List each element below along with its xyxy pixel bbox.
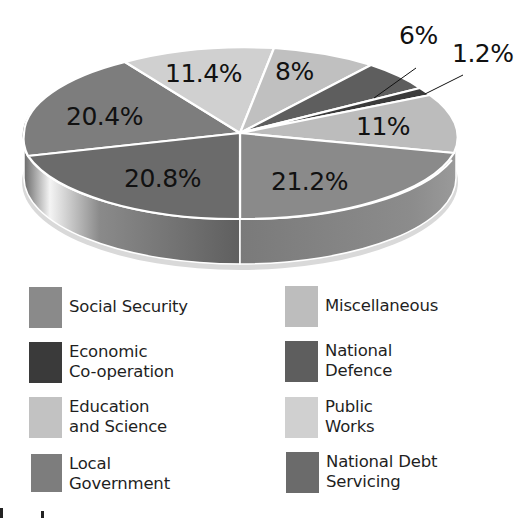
label-debt: 20.8% <box>124 164 201 193</box>
legend-swatch <box>285 286 318 327</box>
stray-mark <box>41 511 44 518</box>
legend-item-national-debt: National Debt Servicing <box>286 452 437 493</box>
legend-label: National Defence <box>325 341 392 381</box>
legend-label: Miscellaneous <box>325 286 438 316</box>
legend-swatch <box>29 287 62 328</box>
pie-chart: 11.4% 8% 6% 1.2% 11% 20.4% 20.8% 21.2% <box>0 0 523 285</box>
legend-item-social-security: Social Security <box>29 287 188 328</box>
legend-swatch <box>29 397 62 438</box>
legend-label: Economic Co-operation <box>69 342 174 382</box>
legend-swatch <box>285 397 318 438</box>
legend-label: Education and Science <box>69 397 167 437</box>
label-economic: 1.2% <box>452 39 514 68</box>
legend-swatch <box>285 341 318 382</box>
label-public-works: 11.4% <box>165 59 242 88</box>
legend-item-education-science: Education and Science <box>29 397 167 438</box>
legend: Social Security Economic Co-operation Ed… <box>0 283 523 483</box>
leader-line-economic <box>425 75 463 94</box>
label-education: 8% <box>275 57 314 86</box>
label-social: 21.2% <box>271 167 348 196</box>
legend-label: National Debt Servicing <box>326 452 437 492</box>
legend-item-public-works: Public Works <box>285 397 374 438</box>
legend-label: Local Government <box>69 454 170 494</box>
legend-label: Public Works <box>325 397 374 437</box>
label-defence: 6% <box>399 21 438 50</box>
legend-item-local-government: Local Government <box>31 454 170 494</box>
legend-item-economic-cooperation: Economic Co-operation <box>29 342 174 383</box>
label-misc: 11% <box>356 112 410 141</box>
stray-mark <box>0 508 3 518</box>
legend-swatch <box>29 342 62 383</box>
legend-item-national-defence: National Defence <box>285 341 392 382</box>
legend-swatch <box>286 452 319 493</box>
label-local: 20.4% <box>66 102 143 131</box>
legend-swatch <box>31 454 62 492</box>
legend-item-miscellaneous: Miscellaneous <box>285 286 438 327</box>
legend-label: Social Security <box>69 287 188 317</box>
